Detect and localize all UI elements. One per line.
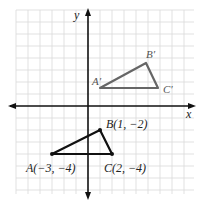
arrow-down-icon bbox=[85, 192, 91, 200]
point-b bbox=[98, 128, 102, 132]
label-c-prime: C′ bbox=[163, 83, 173, 95]
label-a: A(−3, −4) bbox=[25, 161, 76, 175]
point-c bbox=[110, 152, 114, 156]
y-axis-label: y bbox=[73, 8, 80, 22]
image-triangle bbox=[100, 63, 158, 88]
x-axis-label: x bbox=[185, 107, 192, 121]
label-c: C(2, −4) bbox=[104, 161, 146, 175]
label-b-prime: B′ bbox=[146, 48, 156, 60]
arrow-up-icon bbox=[85, 8, 91, 16]
label-b: B(1, −2) bbox=[106, 117, 147, 131]
point-a bbox=[50, 152, 54, 156]
x-axis bbox=[8, 103, 196, 109]
coordinate-plane: y x A′ B′ C′ B(1, −2) A(−3, −4) C(2, −4) bbox=[0, 0, 203, 209]
arrow-left-icon bbox=[8, 103, 16, 109]
label-a-prime: A′ bbox=[91, 75, 102, 87]
y-axis bbox=[85, 8, 91, 200]
